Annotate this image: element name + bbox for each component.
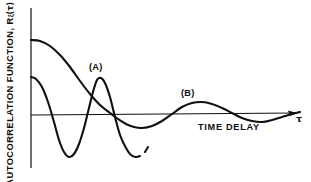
curve-b-label: (B) [181, 88, 195, 98]
autocorrelation-figure: AUTOCORRELATION FUNCTION, Rξ(τ) TIME DEL… [0, 0, 311, 182]
y-axis-label-subscript: ξ [7, 14, 14, 17]
y-axis-label-suffix: (τ) [6, 2, 15, 14]
curve-a-label: (A) [89, 62, 103, 72]
plot-canvas [0, 0, 311, 182]
x-axis-variable-label: τ [296, 113, 302, 124]
x-axis-line [31, 113, 297, 115]
y-axis-label-prefix: AUTOCORRELATION FUNCTION, R [5, 17, 15, 182]
x-axis-label: TIME DELAY [198, 122, 260, 132]
y-axis-label: AUTOCORRELATION FUNCTION, Rξ(τ) [0, 0, 20, 182]
curve-a-tail-path [145, 147, 148, 152]
